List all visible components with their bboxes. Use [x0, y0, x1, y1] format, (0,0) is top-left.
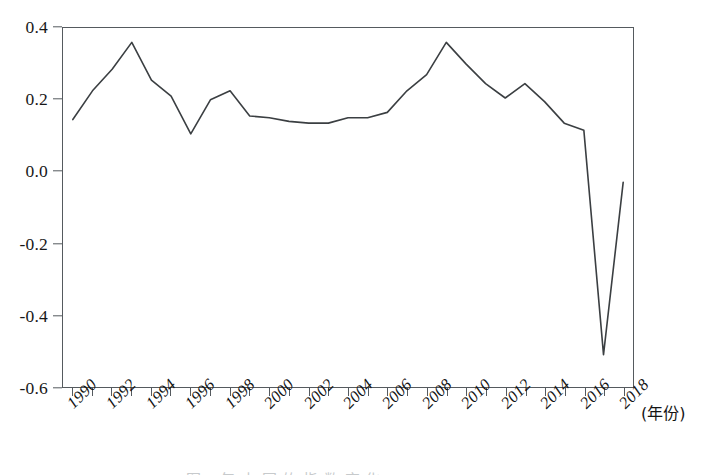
figure-caption-sliver: 图 1 年 中 国 的 指 数 变 化	[186, 468, 541, 475]
x-axis-title: (年份)	[641, 400, 685, 424]
y-tick-label: -0.6	[0, 378, 48, 399]
y-tick-mark	[53, 171, 62, 172]
plot-area	[62, 27, 634, 388]
line-chart-figure: 0.40.20.0-0.2-0.4-0.6 199019921994199619…	[0, 0, 715, 475]
y-tick-mark	[53, 315, 62, 316]
y-tick-label: 0.4	[0, 17, 48, 38]
y-tick-label: 0.2	[0, 89, 48, 110]
y-tick-mark	[53, 26, 62, 27]
y-tick-mark	[53, 243, 62, 244]
y-tick-mark	[53, 387, 62, 388]
y-tick-mark	[53, 98, 62, 99]
y-tick-label: -0.4	[0, 305, 48, 326]
data-series-line	[63, 28, 633, 387]
y-tick-label: -0.2	[0, 233, 48, 254]
y-tick-label: 0.0	[0, 161, 48, 182]
